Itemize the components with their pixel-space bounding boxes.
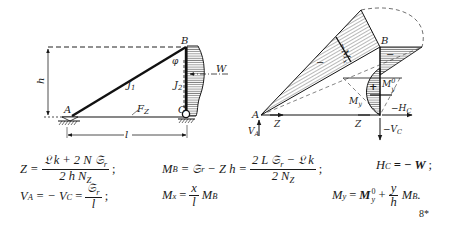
load-w-label: W [216,63,227,74]
member-fz-label: FZ [136,103,149,116]
formula-block: Z = 𝔏 k + 2 N 𝔖r 2 h NZ ; MB = 𝔖r − Z h … [0,150,463,231]
node-b-label: B [180,35,188,46]
sign-minus-top: − [386,49,394,60]
force-vc-label: −VC [383,124,402,136]
page-number: 8* [419,208,429,219]
node-c-label: C [178,104,186,115]
equation-z: Z = 𝔏 k + 2 N 𝔖r 2 h NZ ; [20,154,116,185]
eq-mb-fraction: 2 L 𝔖r − 𝔏 k 2 NZ [250,154,316,185]
node-b-label-right: B [380,35,388,46]
moment-my0-label: M0y [381,77,395,93]
angle-label: φ [172,56,179,66]
member-j1-label: J1 [125,79,135,92]
eq-mx-fraction: x l [189,182,199,209]
eq-my-fraction: y h [388,182,398,209]
force-hc-label: −HC [391,103,411,115]
equation-mx: Mx = x l MB [162,182,217,209]
right-moment-diagram: A B − − + −Mx M0y My Z Z VA −HC −VC [248,8,423,140]
member-j2-label: J2 [172,79,183,92]
node-a-label: A [63,104,71,115]
force-va-label: VA [248,126,260,138]
equation-va: VA = − VC = 𝔖r l ; [20,182,108,211]
equation-my: My = M 0y + y h MB . [332,182,420,209]
force-z-right: Z [354,119,362,129]
eq-z-lhs: Z = [20,162,39,177]
eq-z-end: ; [112,162,115,177]
height-label: h [35,78,46,84]
moment-my-label: My [348,96,362,108]
support-a-icon [62,117,78,121]
span-label: l [125,129,128,140]
equation-mb: MB = 𝔖r − Z h = 2 L 𝔖r − 𝔏 k 2 NZ ; [162,154,322,185]
eq-va-fraction: 𝔖r l [85,182,101,211]
equation-hc: HC = − W ; [376,158,432,173]
eq-z-fraction: 𝔏 k + 2 N 𝔖r 2 h NZ [42,154,110,185]
left-frame-diagram: h l W A B C [35,35,228,140]
sign-plus: + [369,81,377,92]
force-z-left: Z [273,119,281,129]
sign-minus-diagonal: − [316,57,324,68]
moment-diagram-vertical [187,46,204,116]
node-a-label-right: A [251,109,259,120]
